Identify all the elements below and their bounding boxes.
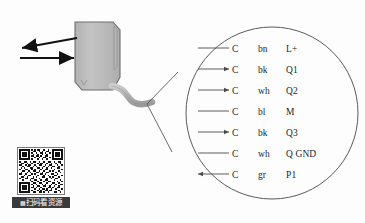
wiring-color: gr — [258, 170, 286, 180]
diagram-canvas: C bn L+ C bk Q1 C wh Q2 C bl M C bk Q3 C… — [0, 0, 365, 223]
wiring-signal: Q GND — [286, 149, 350, 159]
wiring-color: bk — [258, 128, 286, 138]
wiring-signal: L+ — [286, 44, 350, 54]
qr-caption: ▩扫码看资源 — [12, 197, 70, 208]
wiring-terminal: C — [232, 170, 258, 180]
wiring-row: C wh Q2 — [232, 80, 357, 101]
wiring-signal: M — [286, 107, 350, 117]
callout-leader-lower — [147, 104, 172, 152]
wiring-row: C bk Q3 — [232, 122, 357, 143]
callout-leader-upper — [147, 72, 178, 104]
qr-caption-text: 扫码看资源 — [26, 198, 62, 207]
wiring-color: bn — [258, 44, 286, 54]
wiring-signal: Q1 — [286, 65, 350, 75]
wiring-terminal: C — [232, 149, 258, 159]
sensor-cable — [112, 86, 152, 104]
beam-arrow-group — [20, 38, 77, 58]
wiring-terminal: C — [232, 128, 258, 138]
wiring-color: bk — [258, 65, 286, 75]
wiring-terminal: C — [232, 86, 258, 96]
wiring-row: C bn L+ — [232, 38, 357, 59]
wiring-color: wh — [258, 149, 286, 159]
wiring-color: wh — [258, 86, 286, 96]
qr-code-matrix — [19, 149, 63, 193]
sensor-body-outline — [75, 22, 120, 90]
wiring-signal: Q2 — [286, 86, 350, 96]
qr-code-icon[interactable] — [17, 147, 65, 195]
wiring-signal: P1 — [286, 170, 350, 180]
wiring-terminal: C — [232, 65, 258, 75]
callout-leader-lines — [147, 72, 178, 152]
qr-block[interactable]: ▩扫码看资源 — [12, 147, 70, 208]
scan-icon: ▩ — [20, 197, 26, 208]
wire-lead-lines — [198, 48, 229, 174]
wiring-row: C gr P1 — [232, 164, 357, 185]
wiring-row: C wh Q GND — [232, 143, 357, 164]
received-beam-arrow — [22, 38, 77, 48]
sensor-device — [75, 22, 120, 90]
wiring-row: C bk Q1 — [232, 59, 357, 80]
wiring-color: bl — [258, 107, 286, 117]
wiring-terminal: C — [232, 44, 258, 54]
sensor-edge-detail — [114, 26, 117, 70]
wiring-terminal: C — [232, 107, 258, 117]
wiring-signal: Q3 — [286, 128, 350, 138]
wiring-row: C bl M — [232, 101, 357, 122]
wiring-table: C bn L+ C bk Q1 C wh Q2 C bl M C bk Q3 C… — [232, 38, 357, 185]
